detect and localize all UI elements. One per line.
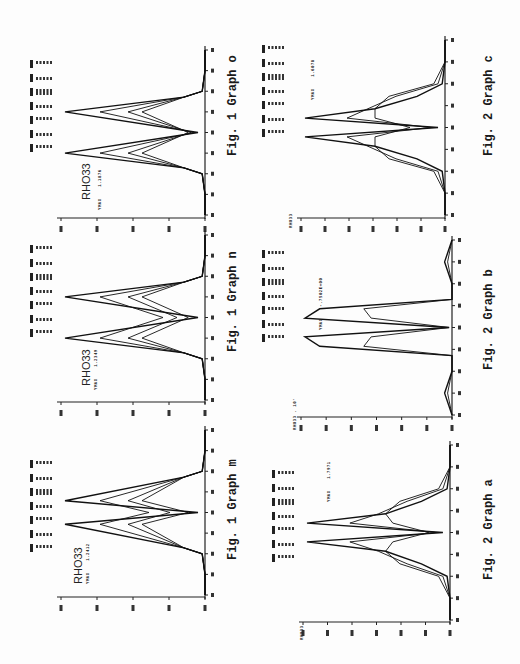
chart-fig1-m [30,426,214,611]
chart-fig1-o [30,46,214,232]
chart-fig2-c [262,36,454,232]
series-curve-2 [347,40,445,215]
ymax-fig1-m: YMAX 1.2412 [85,543,90,584]
legend [30,460,52,552]
caption-fig2-a: Fig. 2 Graph a [482,479,496,580]
ylabel-fig2-c: RHO33 [288,213,293,228]
label-fig1-m: RHO33 [72,547,84,584]
series-curve-2 [350,445,450,620]
series-curve-2 [100,430,205,595]
ymax-fig2-a: YMAX 1.7971 [326,461,331,502]
caption-fig1-o: Fig. 1 Graph o [226,55,240,156]
label-fig1-n: RHO33 [80,349,92,386]
ylabel-fig2-b: RHO33 . 10' [292,398,297,430]
ymax-fig1-n: YMAX 1.2349 [93,349,98,390]
caption-fig2-b: Fig. 2 Graph b [482,269,496,370]
caption-fig1-m: Fig. 1 Graph m [226,459,240,560]
legend [262,250,284,342]
ymax-fig2-b: YMAX -.7502E+00 [318,278,323,330]
label-fig1-o: RHO33 [80,163,92,200]
caption-fig2-c: Fig. 2 Graph c [482,55,496,156]
legend [30,245,52,337]
series-curve-1 [305,240,452,415]
ylabel-fig2-a: RHO33 [299,625,304,640]
chart-fig1-n [30,231,214,416]
caption-fig1-n: Fig. 1 Graph n [226,251,240,352]
legend [272,470,294,562]
ymax-fig2-c: YMAX 1.6078 [310,59,315,100]
series-curve-1 [305,40,445,215]
chart-fig2-a [272,441,459,636]
ymax-fig1-o: YMAX 1.1876 [97,169,102,210]
legend [30,60,52,152]
scanned-page: Fig. 1 Graph o Fig. 1 Graph n Fig. 1 Gra… [0,0,520,664]
legend [262,45,284,137]
